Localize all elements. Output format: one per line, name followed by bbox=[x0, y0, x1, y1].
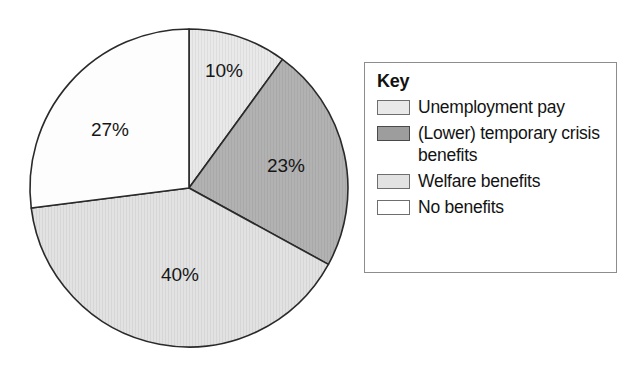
pie-label-temporary-crisis-benefits: 23% bbox=[267, 155, 305, 176]
pie-label-unemployment-pay: 10% bbox=[205, 60, 243, 81]
legend-swatch-icon-unemployment-pay bbox=[377, 100, 410, 115]
legend-title: Key bbox=[377, 71, 606, 92]
pie-chart-figure: 10% 23% 40% 27% Key Unemployment pay (Lo… bbox=[0, 0, 641, 367]
pie-svg: 10% 23% 40% 27% bbox=[0, 0, 380, 367]
pie-chart-area: 10% 23% 40% 27% bbox=[0, 0, 380, 367]
legend-label-unemployment-pay: Unemployment pay bbox=[418, 96, 565, 118]
legend-swatch-icon-no-benefits bbox=[377, 200, 410, 215]
pie-label-welfare-benefits: 40% bbox=[161, 264, 199, 285]
legend-item-temporary-crisis-benefits[interactable]: (Lower) temporary crisis benefits bbox=[377, 122, 606, 166]
legend-item-unemployment-pay[interactable]: Unemployment pay bbox=[377, 96, 606, 118]
pie-label-no-benefits: 27% bbox=[91, 119, 129, 140]
legend-swatch-icon-temporary-crisis-benefits bbox=[377, 126, 410, 141]
legend-label-welfare-benefits: Welfare benefits bbox=[418, 170, 540, 192]
legend-label-temporary-crisis-benefits: (Lower) temporary crisis benefits bbox=[418, 122, 606, 166]
legend-item-welfare-benefits[interactable]: Welfare benefits bbox=[377, 170, 606, 192]
legend-swatch-icon-welfare-benefits bbox=[377, 174, 410, 189]
legend-item-no-benefits[interactable]: No benefits bbox=[377, 196, 606, 218]
legend-label-no-benefits: No benefits bbox=[418, 196, 504, 218]
legend-key-box: Key Unemployment pay (Lower) temporary c… bbox=[364, 62, 617, 273]
